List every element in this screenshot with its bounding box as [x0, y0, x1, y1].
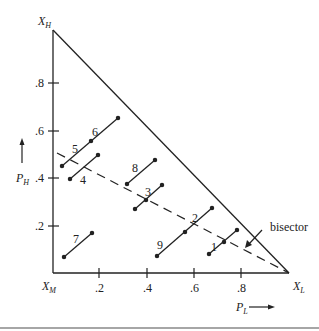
vertex-label-xl: XL — [292, 279, 305, 295]
x-tick-label: .6 — [190, 281, 199, 295]
segment-9-2 — [155, 206, 213, 257]
segment-label: 5 — [72, 142, 78, 156]
y-tick-label: .8 — [35, 76, 44, 90]
y-axis-arrow-icon — [20, 138, 25, 163]
segment-label: 1 — [211, 240, 217, 254]
segment-5-6 — [60, 116, 119, 167]
segment-label: 9 — [157, 238, 163, 252]
x-tick-label: .8 — [237, 281, 246, 295]
y-axis-label: PH — [15, 171, 30, 187]
y-tick-label: .6 — [35, 124, 44, 138]
bisector-line — [57, 153, 289, 273]
bisector-label: bisector — [270, 220, 308, 234]
segment-label: 4 — [80, 173, 86, 187]
segment-8 — [125, 158, 156, 185]
x-axis-arrow-icon — [249, 305, 275, 310]
segment-label: 3 — [145, 185, 151, 199]
y-tick-label: .2 — [35, 219, 44, 233]
segment-label: 6 — [92, 125, 98, 139]
x-tick-label: .4 — [143, 281, 152, 295]
ternary-diagram: .2 .4 .6 .8 .2 .4 .6 .8 XH XM XL PL PH b… — [0, 0, 319, 331]
x-tick-label: .2 — [95, 281, 104, 295]
segment-label: 2 — [192, 211, 198, 225]
segment-label: 7 — [73, 232, 79, 246]
segment-label: 8 — [132, 161, 138, 175]
vertex-label-xm: XM — [41, 279, 57, 295]
y-tick-label: .4 — [35, 171, 44, 185]
vertex-label-xh: XH — [37, 14, 52, 30]
x-axis-label: PL — [235, 300, 248, 316]
bisector-pointer-arrow-icon — [245, 230, 262, 248]
